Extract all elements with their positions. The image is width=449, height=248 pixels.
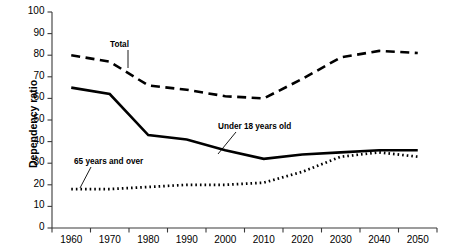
dependency-ratio-chart: Dependency ratio 0102030405060708090100 … bbox=[0, 0, 449, 248]
series-lines bbox=[71, 51, 418, 189]
series-line-2 bbox=[71, 152, 418, 189]
annotation-leader-2 bbox=[80, 167, 91, 188]
axis-lines bbox=[48, 12, 438, 233]
series-line-0 bbox=[71, 51, 418, 99]
plot-area bbox=[0, 0, 449, 248]
annotation-leader-lines bbox=[80, 50, 236, 188]
